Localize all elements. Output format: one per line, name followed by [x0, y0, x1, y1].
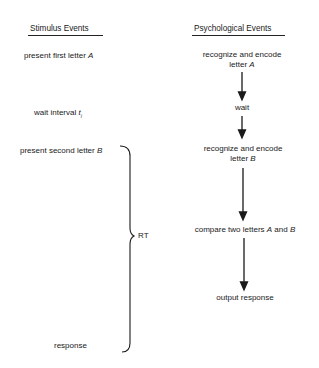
psych-event-encode-a: recognize and encode letter A: [190, 50, 294, 70]
psych-event-wait: wait: [222, 103, 262, 113]
psych-event-compare: compare two letters A and B: [180, 225, 310, 235]
psych-event-encode-b: recognize and encode letter B: [190, 144, 296, 164]
psych-event-output-response: output response: [205, 293, 285, 303]
rt-label: RT: [138, 231, 149, 241]
